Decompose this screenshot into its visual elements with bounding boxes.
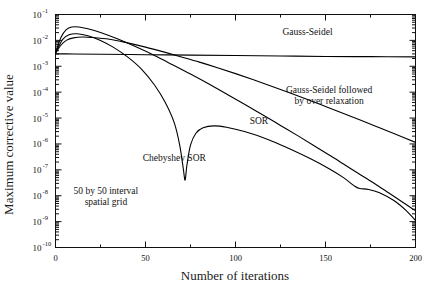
axis-tick-labels: 05010015020010-110-210-310-410-510-610-7… bbox=[33, 7, 422, 263]
y-tick-label: 10-1 bbox=[33, 7, 48, 20]
y-tick-label: 10-8 bbox=[33, 188, 48, 201]
x-tick-label: 50 bbox=[141, 253, 150, 263]
svg-text:-3: -3 bbox=[43, 59, 48, 66]
chart-canvas: 05010015020010-110-210-310-410-510-610-7… bbox=[0, 0, 438, 289]
x-tick-label: 0 bbox=[53, 253, 57, 263]
svg-text:-10: -10 bbox=[43, 240, 52, 247]
y-tick-label: 10-6 bbox=[33, 136, 49, 149]
chart-figure: 05010015020010-110-210-310-410-510-610-7… bbox=[0, 0, 438, 289]
gauss-seidel-overrelax-label-line-2: by over relaxation bbox=[295, 96, 364, 106]
gauss-seidel-label: Gauss-Seidel bbox=[282, 27, 332, 37]
y-tick-label: 10-5 bbox=[33, 111, 48, 124]
gauss-seidel-overrelax-label: Gauss-Seidel followedby over relaxation bbox=[286, 85, 373, 106]
svg-text:10: 10 bbox=[33, 139, 43, 149]
x-tick-label: 200 bbox=[409, 253, 422, 263]
y-tick-label: 10-4 bbox=[33, 85, 49, 98]
axes-frame bbox=[56, 15, 416, 248]
svg-text:10: 10 bbox=[33, 114, 43, 124]
svg-text:10: 10 bbox=[33, 88, 43, 98]
svg-text:-6: -6 bbox=[43, 136, 49, 143]
y-tick-label: 10-3 bbox=[33, 59, 48, 72]
gauss-seidel-label-line-1: Gauss-Seidel bbox=[282, 27, 332, 37]
grid-note-line-2: spatial grid bbox=[85, 197, 128, 207]
chebyshev-sor-label-line-1: Chebyshev SOR bbox=[143, 153, 207, 163]
y-tick-label: 10-2 bbox=[33, 33, 48, 46]
grid-note: 50 by 50 intervalspatial grid bbox=[74, 186, 139, 207]
x-tick-label: 150 bbox=[319, 253, 332, 263]
y-tick-label: 10-7 bbox=[33, 162, 49, 175]
plot-border bbox=[56, 15, 416, 248]
y-tick-label: 10-10 bbox=[33, 240, 52, 253]
svg-text:10: 10 bbox=[33, 217, 43, 227]
svg-text:-4: -4 bbox=[43, 85, 49, 92]
svg-text:10: 10 bbox=[33, 165, 43, 175]
svg-text:-1: -1 bbox=[43, 7, 48, 14]
sor-label: SOR bbox=[250, 116, 269, 126]
x-axis-title: Number of iterations bbox=[55, 268, 415, 284]
sor-label-line-1: SOR bbox=[250, 116, 269, 126]
svg-text:-7: -7 bbox=[43, 162, 49, 169]
chebyshev-sor-label: Chebyshev SOR bbox=[143, 153, 207, 163]
svg-text:-8: -8 bbox=[43, 188, 48, 195]
y-tick-label: 10-9 bbox=[33, 214, 48, 227]
series-line-gauss-seidel bbox=[56, 54, 416, 57]
x-tick-label: 100 bbox=[229, 253, 242, 263]
y-axis-title: Maximum corrective value bbox=[0, 0, 18, 289]
svg-text:-9: -9 bbox=[43, 214, 48, 221]
svg-text:10: 10 bbox=[33, 10, 43, 20]
svg-text:10: 10 bbox=[33, 36, 43, 46]
svg-text:10: 10 bbox=[33, 62, 43, 72]
gauss-seidel-overrelax-label-line-1: Gauss-Seidel followed bbox=[286, 85, 373, 95]
svg-text:-2: -2 bbox=[43, 33, 48, 40]
grid-note-line-1: 50 by 50 interval bbox=[74, 186, 139, 196]
svg-text:10: 10 bbox=[33, 191, 43, 201]
axis-ticks bbox=[56, 15, 416, 248]
svg-text:10: 10 bbox=[33, 243, 43, 253]
svg-text:-5: -5 bbox=[43, 111, 48, 118]
